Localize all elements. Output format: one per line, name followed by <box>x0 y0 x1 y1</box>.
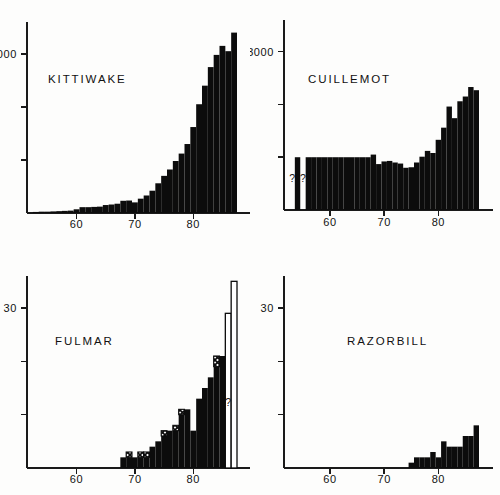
svg-text:80: 80 <box>432 216 445 228</box>
razorbill-chart: 30607080RAZORBILL <box>250 250 500 495</box>
svg-text:3000: 3000 <box>0 48 17 60</box>
svg-text:80: 80 <box>187 218 200 230</box>
svg-text:?: ? <box>225 396 231 408</box>
svg-text:?: ? <box>300 172 306 184</box>
fulmar-chart: 30607080?FULMAR <box>0 250 250 495</box>
svg-text:RAZORBILL: RAZORBILL <box>347 335 428 347</box>
guillemot-chart: 3000607080??CUILLEMOT <box>250 0 500 250</box>
panel-razorbill: 30607080RAZORBILL <box>250 250 500 495</box>
panel-kittiwake: 3000607080KITTIWAKE <box>0 0 250 250</box>
svg-text:KITTIWAKE: KITTIWAKE <box>48 73 127 85</box>
svg-text:30: 30 <box>4 302 17 314</box>
svg-text:70: 70 <box>128 473 141 485</box>
svg-text:30: 30 <box>261 302 274 314</box>
svg-text:60: 60 <box>323 473 336 485</box>
svg-text:80: 80 <box>432 473 445 485</box>
svg-text:?: ? <box>289 172 295 184</box>
panel-fulmar: 30607080?FULMAR <box>0 250 250 495</box>
kittiwake-chart: 3000607080KITTIWAKE <box>0 0 250 250</box>
svg-text:60: 60 <box>70 473 83 485</box>
svg-text:80: 80 <box>187 473 200 485</box>
seabird-population-figure: 3000607080KITTIWAKE 3000607080??CUILLEMO… <box>0 0 500 495</box>
svg-text:60: 60 <box>70 218 83 230</box>
svg-text:CUILLEMOT: CUILLEMOT <box>308 73 391 85</box>
svg-text:60: 60 <box>323 216 336 228</box>
svg-text:3000: 3000 <box>250 46 274 58</box>
panel-guillemot: 3000607080??CUILLEMOT <box>250 0 500 250</box>
svg-text:70: 70 <box>377 216 390 228</box>
svg-text:70: 70 <box>377 473 390 485</box>
svg-text:FULMAR: FULMAR <box>55 335 114 347</box>
svg-text:70: 70 <box>128 218 141 230</box>
